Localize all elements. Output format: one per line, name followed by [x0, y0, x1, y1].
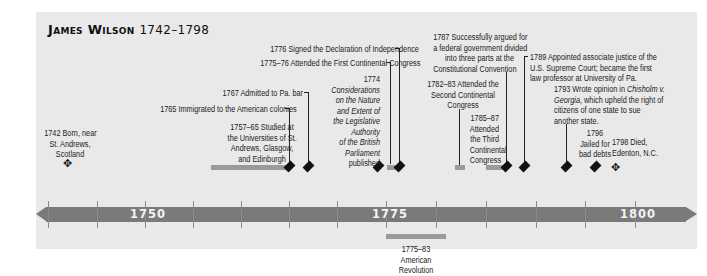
- title-name: James Wilson: [48, 22, 135, 37]
- label-line: 1789 Appointed associate justice of the: [530, 52, 659, 63]
- label-line: and Edinburgh: [228, 154, 297, 165]
- span-1782-1783: [455, 165, 465, 170]
- event-1767-label: 1767 Admitted to Pa. bar: [214, 88, 303, 99]
- case-name: Georgia: [554, 95, 580, 105]
- publication-title: of the British: [339, 137, 380, 147]
- event-1785-label: 1785–87 Attended the Third Continental C…: [470, 113, 499, 166]
- tick-1755: [193, 201, 194, 228]
- axis-label-1775: 1775: [372, 207, 408, 222]
- label-line: Revolution: [390, 265, 442, 276]
- event-1782-label: 1782–83 Attended the Second Continental …: [424, 79, 501, 111]
- tick-1745: [97, 201, 98, 228]
- label-line: the Universities of St.: [228, 133, 297, 144]
- label-line: 1757–65 Studied at: [228, 122, 297, 133]
- event-revolution-label: 1775–83 American Revolution: [390, 244, 442, 276]
- label-line: Congress: [470, 155, 499, 166]
- label-line: Edenton, N.C.: [612, 148, 664, 159]
- event-1796-label: 1796 Jailed for bad debts: [574, 128, 617, 160]
- event-1742-label: 1742 Born, near St. Andrews, Scotland: [44, 128, 96, 160]
- label-line: U.S. Supreme Court; became the first: [530, 63, 659, 74]
- label-line: 1775–83: [390, 244, 442, 255]
- publication-title: Considerations: [331, 85, 380, 95]
- publication-title: the Legislative: [333, 116, 380, 126]
- span-american-revolution: [386, 234, 446, 239]
- label-line: law professor at University of Pa.: [530, 73, 659, 84]
- leader-line: [524, 56, 525, 164]
- label-line: Continental: [470, 145, 499, 156]
- label-line: American: [390, 255, 442, 266]
- label-line: 1798 Died,: [612, 137, 664, 148]
- span-1757-1765: [211, 165, 289, 170]
- leader-line: [390, 62, 391, 164]
- leader-line: [566, 124, 567, 164]
- tick-1780: [436, 201, 437, 228]
- event-1793-label: 1793 Wrote opinion in Chisholm v. Georgi…: [554, 84, 649, 126]
- label-line: bad debts: [574, 149, 617, 160]
- event-1757-label: 1757–65 Studied at the Universities of S…: [228, 122, 297, 164]
- event-1765-label: 1765 Immigrated to the American colonies: [160, 104, 284, 115]
- publication-title: Authority: [351, 127, 380, 137]
- label-line: Congress: [424, 100, 501, 111]
- hollow-diamond-icon: ✥: [63, 158, 72, 169]
- publication-title: on the Nature: [336, 95, 380, 105]
- timeline-title: James Wilson 1742–1798: [48, 22, 209, 37]
- publication-title: and Extent of: [337, 106, 380, 116]
- leader-line: [308, 92, 309, 164]
- event-1775-label: 1775–76 Attended the First Continental C…: [260, 58, 385, 69]
- case-name: Chisholm v.: [627, 84, 665, 94]
- label-line: Andrews, Glasgow,: [228, 143, 297, 154]
- label-line: Constitutional Convention: [433, 64, 514, 75]
- label-line: the Third: [470, 134, 499, 145]
- label-line: another state.: [554, 116, 649, 127]
- tick-1790: [536, 201, 537, 228]
- label-line: citizens of one state to sue: [554, 105, 649, 116]
- leader-line: [506, 72, 507, 164]
- leader-line: [289, 108, 290, 164]
- label-line: 1774: [320, 74, 380, 85]
- label-line: a federal government divided: [433, 43, 514, 54]
- label-line: 1796: [574, 128, 617, 139]
- event-1789-label: 1789 Appointed associate justice of the …: [530, 52, 659, 84]
- tick-1740: [48, 201, 49, 228]
- label-line: 1787 Successfully argued for: [433, 32, 514, 43]
- event-1774-label: 1774 Considerations on the Nature and Ex…: [320, 74, 380, 169]
- arrow-left-icon: [36, 207, 46, 221]
- event-1776-label: 1776 Signed the Declaration of Independe…: [270, 44, 394, 55]
- label-line: 1785–87: [470, 113, 499, 124]
- tick-1795: [585, 201, 586, 228]
- publication-title: Parliament: [345, 148, 380, 158]
- hollow-diamond-icon: ✥: [611, 162, 620, 173]
- event-1787-label: 1787 Successfully argued for a federal g…: [433, 32, 514, 74]
- axis-label-1800: 1800: [620, 207, 656, 222]
- tick-1785: [486, 201, 487, 228]
- axis-label-1750: 1750: [130, 207, 166, 222]
- leader-line: [459, 109, 460, 165]
- label-line: Attended: [470, 124, 499, 135]
- tick-1760: [241, 201, 242, 228]
- label-line: 1742 Born, near: [44, 128, 96, 139]
- tick-1770: [337, 201, 338, 228]
- arrow-right-icon: [686, 207, 697, 221]
- label-line: Second Continental: [424, 90, 501, 101]
- leader-line: [399, 48, 400, 164]
- label-line: St. Andrews,: [44, 139, 96, 150]
- label-line: into three parts at the: [433, 53, 514, 64]
- label-line: Jailed for: [574, 139, 617, 150]
- label-text: , which upheld the right of: [580, 95, 663, 105]
- title-years: 1742–1798: [139, 23, 209, 37]
- tick-1765: [289, 201, 290, 228]
- event-1798-label: 1798 Died, Edenton, N.C.: [612, 137, 664, 158]
- label-text: 1793 Wrote opinion in: [554, 84, 627, 94]
- label-line: published: [320, 158, 380, 169]
- label-line: 1782–83 Attended the: [424, 79, 501, 90]
